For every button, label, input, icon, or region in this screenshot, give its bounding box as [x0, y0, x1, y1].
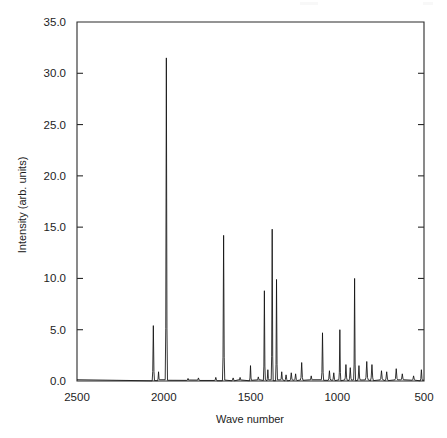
y-tick-label: 10.0	[44, 272, 66, 284]
x-tick-label: 2500	[64, 391, 90, 403]
x-tick-label: 1500	[238, 391, 264, 403]
y-tick-label: 30.0	[44, 67, 66, 79]
y-tick-label: 20.0	[44, 170, 66, 182]
x-tick-label: 500	[414, 391, 433, 403]
x-tick-label: 1000	[324, 391, 350, 403]
y-tick-label: 25.0	[44, 119, 66, 131]
chart-background	[0, 0, 447, 438]
spectrum-chart: 0.05.010.015.020.025.030.035.0 250020001…	[0, 0, 447, 438]
y-tick-label: 15.0	[44, 221, 66, 233]
x-tick-label: 2000	[151, 391, 177, 403]
chart-canvas: 0.05.010.015.020.025.030.035.0 250020001…	[0, 0, 447, 438]
x-axis-title: Wave number	[216, 413, 284, 425]
y-axis-title: Intensity (arb. units)	[16, 157, 28, 254]
y-tick-label: 0.0	[50, 375, 66, 387]
y-tick-label: 5.0	[50, 324, 66, 336]
y-tick-label: 35.0	[44, 16, 66, 28]
